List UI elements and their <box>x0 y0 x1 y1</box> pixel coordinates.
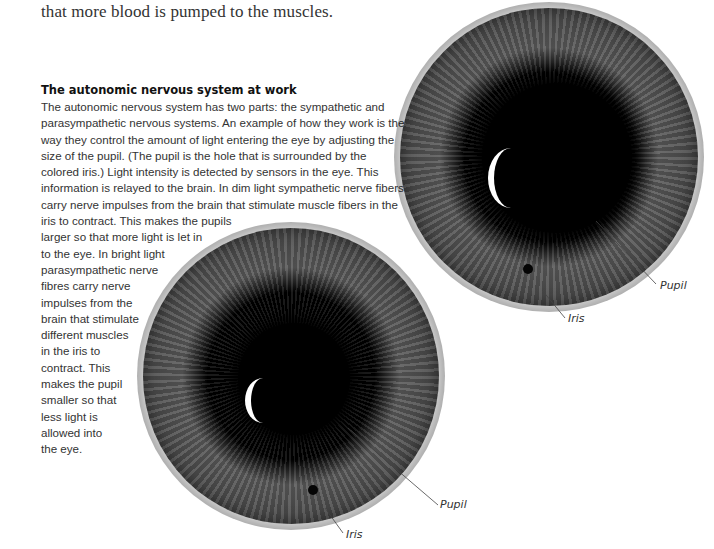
iris-label: Iris <box>568 312 585 325</box>
iris-label: Iris <box>346 528 363 541</box>
label-leader-lines <box>0 0 714 549</box>
pupil-label: Pupil <box>660 279 687 292</box>
pupil-label: Pupil <box>440 498 467 511</box>
